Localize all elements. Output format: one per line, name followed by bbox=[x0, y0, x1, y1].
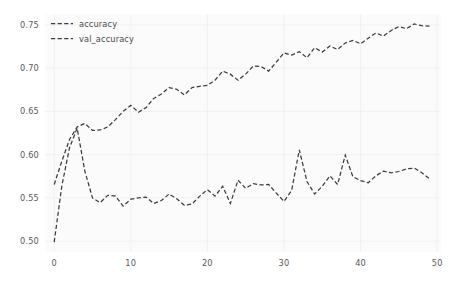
y-tick-label: 0.70 bbox=[20, 63, 39, 73]
data-series-layer bbox=[45, 14, 441, 252]
figure-canvas: 0.500.550.600.650.700.75 01020304050 acc… bbox=[0, 0, 459, 283]
x-tick-label: 40 bbox=[355, 258, 366, 268]
x-tick-label: 0 bbox=[51, 258, 56, 268]
y-axis-tick-labels: 0.500.550.600.650.700.75 bbox=[0, 0, 39, 283]
legend-entry-accuracy: accuracy bbox=[51, 18, 134, 29]
y-tick-label: 0.60 bbox=[20, 150, 39, 160]
x-tick-label: 50 bbox=[432, 258, 443, 268]
x-tick-label: 10 bbox=[125, 258, 136, 268]
y-tick-label: 0.50 bbox=[20, 236, 39, 246]
legend-label: accuracy bbox=[79, 19, 117, 29]
x-axis-tick-labels: 01020304050 bbox=[0, 258, 459, 274]
legend-entry-val_accuracy: val_accuracy bbox=[51, 33, 134, 44]
series-line-val_accuracy bbox=[54, 128, 429, 242]
y-tick-label: 0.75 bbox=[20, 20, 39, 30]
legend-line-swatch-icon bbox=[51, 19, 73, 28]
x-tick-label: 20 bbox=[202, 258, 213, 268]
series-line-accuracy bbox=[54, 24, 429, 185]
legend-line-swatch-icon bbox=[51, 34, 73, 43]
x-tick-label: 30 bbox=[279, 258, 290, 268]
chart-legend: accuracyval_accuracy bbox=[51, 18, 134, 44]
plot-area bbox=[45, 14, 441, 252]
y-tick-label: 0.55 bbox=[20, 193, 39, 203]
legend-label: val_accuracy bbox=[79, 34, 134, 44]
y-tick-label: 0.65 bbox=[20, 106, 39, 116]
